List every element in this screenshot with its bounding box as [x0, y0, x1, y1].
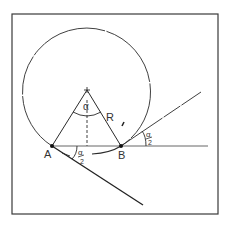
point-b-dot — [119, 144, 123, 148]
point-a-label: A — [44, 148, 52, 160]
tangent-line-b — [121, 92, 201, 146]
diagram-canvas: α R A B α 2 α 2 — [0, 0, 230, 226]
circle-arc-lower — [92, 146, 121, 154]
frame-border — [12, 14, 218, 214]
radius-label: R — [106, 111, 114, 123]
half-angle-arc-a — [72, 146, 77, 159]
radius-line-a — [52, 90, 87, 146]
tangent-line-a — [52, 146, 143, 205]
point-b-label: B — [118, 149, 125, 161]
circle-arc-upper — [23, 28, 151, 146]
half-angle-b-denominator: 2 — [148, 139, 152, 146]
half-angle-a-denominator: 2 — [80, 158, 84, 165]
arc-mark — [122, 122, 124, 126]
center-angle-label: α — [83, 101, 89, 112]
radius-line-b — [87, 90, 121, 146]
